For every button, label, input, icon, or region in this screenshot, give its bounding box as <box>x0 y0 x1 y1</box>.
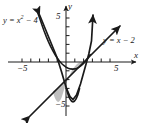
y-tick-label-negative-5: −5 <box>55 100 66 109</box>
parabola-equation-head: y = x <box>3 15 21 25</box>
parabola-curve <box>38 13 93 102</box>
graph-figure: y = x2 − 4 y = x − 2 −5 5 5 −5 x y <box>0 0 146 123</box>
parabola-equation-label: y = x2 − 4 <box>3 16 38 25</box>
x-axis-label: x <box>134 51 138 60</box>
x-tick-label-positive-5: 5 <box>114 64 119 73</box>
parabola-equation-tail: − 4 <box>24 15 38 25</box>
line-equation-label: y = x − 2 <box>103 36 135 45</box>
y-tick-label-positive-5: 5 <box>56 12 61 21</box>
x-tick-label-negative-5: −5 <box>17 64 28 73</box>
y-axis-label: y <box>68 2 72 11</box>
x-axis <box>8 59 136 63</box>
y-axis <box>66 6 70 116</box>
